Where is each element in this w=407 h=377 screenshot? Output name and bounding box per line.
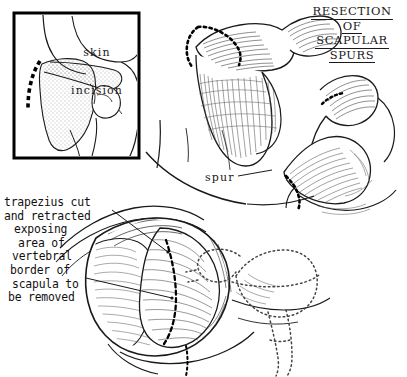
title-line-1: RESECTION	[300, 6, 404, 20]
caption-line-6: border of	[10, 264, 116, 278]
inset-label-line-2: incision	[60, 85, 134, 98]
caption-trapezius: trapezius cut and retracted exposing are…	[4, 196, 116, 305]
inset-label-line-1: skin	[60, 47, 134, 60]
spur-label: spur	[205, 171, 235, 184]
title-line-2: OF	[300, 21, 404, 35]
caption-line-7: scapula to	[12, 278, 116, 292]
inset-label-skin-incision: skin incision	[60, 22, 134, 110]
caption-line-3: exposing	[14, 223, 116, 237]
caption-line-5: vertebral	[12, 250, 116, 264]
caption-line-2: and retracted	[4, 210, 116, 224]
figure-title: RESECTION OF SCAPULAR SPURS	[300, 6, 404, 64]
title-line-4: SPURS	[300, 50, 404, 64]
caption-line-1: trapezius cut	[4, 196, 116, 210]
caption-line-4: area of	[18, 237, 116, 251]
title-line-3: SCAPULAR	[300, 35, 404, 49]
caption-line-8: be removed	[8, 291, 116, 305]
